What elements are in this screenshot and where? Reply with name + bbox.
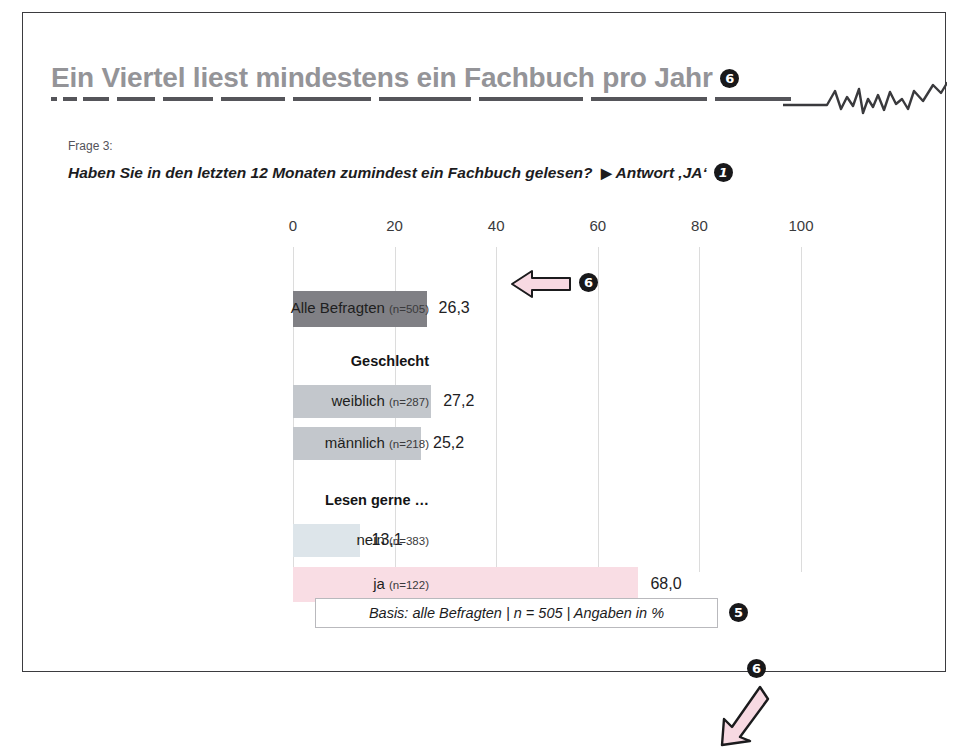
gridline — [801, 247, 802, 572]
question-number: Frage 3: — [68, 139, 113, 153]
category-label-count: (n=505) — [389, 303, 429, 315]
category-label-count: (n=287) — [389, 396, 429, 408]
category-group-header: Lesen gerne … — [325, 492, 429, 508]
callout-arrow-diagonal-icon — [716, 679, 776, 751]
bar-value-label: 25,2 — [433, 434, 464, 452]
category-label: Alle Befragten (n=505) — [291, 299, 429, 316]
category-label: weiblich (n=287) — [332, 392, 430, 409]
basis-note-box: Basis: alle Befragten | n = 505 | Angabe… — [315, 598, 718, 628]
bar-value-label: 26,3 — [439, 299, 470, 317]
basis-note-text: Basis: alle Befragten | n = 505 | Angabe… — [369, 605, 664, 621]
gridline — [496, 247, 497, 572]
category-label: ja (n=122) — [373, 575, 429, 592]
callout-ja-marker-badge: 6 — [747, 659, 766, 678]
category-label-count: (n=383) — [389, 535, 429, 547]
category-label-count: (n=218) — [389, 438, 429, 450]
x-tick-label: 40 — [488, 217, 505, 234]
bar — [293, 524, 360, 557]
gridline — [699, 247, 700, 572]
page-title: Ein Viertel liest mindestens ein Fachbuc… — [51, 62, 739, 94]
bar-value-label: 27,2 — [443, 392, 474, 410]
answer-marker-badge: 1 — [714, 163, 733, 182]
x-tick-label: 80 — [691, 217, 708, 234]
category-label-name: nein — [357, 531, 390, 548]
category-label-name: weiblich — [332, 392, 390, 409]
basis-marker-badge: 5 — [729, 603, 748, 622]
x-tick-label: 60 — [589, 217, 606, 234]
answer-note: Antwort ‚JA‘ — [616, 164, 707, 181]
callout-arrow-left-icon — [510, 269, 572, 299]
category-label: männlich (n=218) — [325, 434, 429, 451]
callout-bar-marker-badge: 6 — [579, 273, 598, 292]
x-tick-label: 20 — [386, 217, 403, 234]
category-label-name: Alle Befragten — [291, 299, 389, 316]
category-label: nein (n=383) — [357, 531, 430, 548]
ekg-squiggle-icon — [783, 79, 947, 119]
bar-value-label: 68,0 — [650, 575, 681, 593]
slide-frame: Ein Viertel liest mindestens ein Fachbuc… — [22, 12, 946, 672]
category-group-header: Geschlecht — [351, 353, 429, 369]
question-text: Haben Sie in den letzten 12 Monaten zumi… — [68, 164, 593, 181]
triangle-right-icon: ▶ — [593, 165, 616, 181]
category-label-name: männlich — [325, 434, 389, 451]
x-tick-label: 0 — [289, 217, 297, 234]
question-text-row: Haben Sie in den letzten 12 Monaten zumi… — [68, 163, 733, 182]
dashed-rule-decoration — [51, 97, 791, 102]
x-tick-label: 100 — [788, 217, 813, 234]
bar — [293, 567, 638, 602]
gridline — [598, 247, 599, 572]
category-label-count: (n=122) — [389, 579, 429, 591]
slide-header: Ein Viertel liest mindestens ein Fachbuc… — [23, 13, 947, 113]
bar-chart: 020406080100 26,327,225,213,168,0 Alle B… — [23, 209, 947, 579]
title-marker-badge: 6 — [720, 69, 739, 88]
page-title-text: Ein Viertel liest mindestens ein Fachbuc… — [51, 62, 713, 93]
category-label-name: ja — [373, 575, 389, 592]
